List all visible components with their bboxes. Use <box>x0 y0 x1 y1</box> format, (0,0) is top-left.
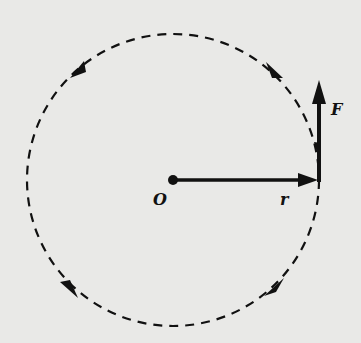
label-origin: O <box>153 190 167 209</box>
direction-arrow-bottom-left <box>60 280 78 298</box>
radius-arrowhead <box>298 173 318 187</box>
label-r: r <box>280 190 290 209</box>
direction-arrow-top-left <box>70 61 86 78</box>
force-arrowhead <box>312 80 326 104</box>
direction-arrow-bottom-right <box>264 278 284 296</box>
diagram-canvas: O r F <box>0 0 361 343</box>
label-f: F <box>330 100 344 119</box>
